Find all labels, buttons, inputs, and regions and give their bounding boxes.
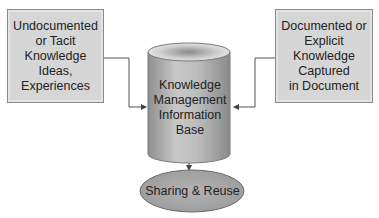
tacit-knowledge-box: Undocumented or Tacit Knowledge Ideas, E… <box>7 9 104 103</box>
right-box-line: Captured <box>281 64 366 79</box>
sharing-reuse-label: Sharing & Reuse <box>140 184 245 198</box>
left-box-line: or Tacit <box>13 34 98 49</box>
left-box-line: Undocumented <box>13 19 98 34</box>
cylinder-line: Management <box>148 93 232 108</box>
cylinder-line: Knowledge <box>148 78 232 93</box>
right-box-line: Knowledge <box>281 49 366 64</box>
explicit-knowledge-box: Documented or Explicit Knowledge Capture… <box>275 9 373 103</box>
left-box-line: Knowledge <box>13 49 98 64</box>
cylinder-line: Information <box>148 108 232 123</box>
knowledge-base-cylinder-label: Knowledge Management Information Base <box>148 78 232 138</box>
right-connector-arrow <box>234 58 275 107</box>
left-box-line: Ideas, <box>13 64 98 79</box>
cylinder-line: Base <box>148 123 232 138</box>
right-box-line: Explicit <box>281 34 366 49</box>
left-box-line: Experiences <box>13 79 98 94</box>
left-connector-arrow <box>104 58 146 107</box>
right-box-line: in Document <box>281 79 366 94</box>
right-box-line: Documented or <box>281 19 366 34</box>
